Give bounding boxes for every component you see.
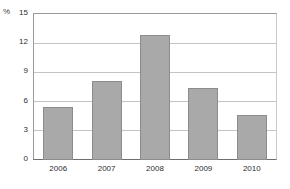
bar-slot bbox=[140, 14, 170, 160]
y-axis-tick-label: 3 bbox=[6, 126, 28, 134]
bar-slot bbox=[43, 14, 73, 160]
bar-slot bbox=[188, 14, 218, 160]
y-axis-tick-label: 9 bbox=[6, 67, 28, 75]
bar-2006[interactable] bbox=[43, 107, 73, 160]
bar-chart: % 03691215 20062007200820092010 bbox=[0, 0, 290, 189]
x-axis-label-2008: 2008 bbox=[131, 164, 179, 174]
y-axis-tick-label: 0 bbox=[6, 155, 28, 163]
y-axis-tick: 3 bbox=[6, 126, 28, 134]
bar-2010[interactable] bbox=[237, 115, 267, 160]
bar-2007[interactable] bbox=[92, 81, 122, 160]
bar-slot bbox=[92, 14, 122, 160]
bar-2008[interactable] bbox=[140, 35, 170, 160]
y-axis-tick-label: 12 bbox=[6, 38, 28, 46]
bar-2009[interactable] bbox=[188, 88, 218, 160]
y-axis-tick: 0 bbox=[6, 155, 28, 163]
y-axis-tick: 6 bbox=[6, 97, 28, 105]
y-axis-tick-label: 6 bbox=[6, 97, 28, 105]
bars-layer bbox=[34, 14, 276, 160]
y-axis-tick-label: 15 bbox=[6, 9, 28, 17]
y-axis-tick: 9 bbox=[6, 67, 28, 75]
bar-slot bbox=[237, 14, 267, 160]
x-axis-label-2007: 2007 bbox=[82, 164, 130, 174]
x-axis-label-2010: 2010 bbox=[228, 164, 276, 174]
x-axis-label-2006: 2006 bbox=[34, 164, 82, 174]
y-axis-tick: 12 bbox=[6, 38, 28, 46]
x-axis-tick-labels: 20062007200820092010 bbox=[34, 164, 276, 178]
x-axis-label-2009: 2009 bbox=[179, 164, 227, 174]
y-axis-tick: 15 bbox=[6, 9, 28, 17]
